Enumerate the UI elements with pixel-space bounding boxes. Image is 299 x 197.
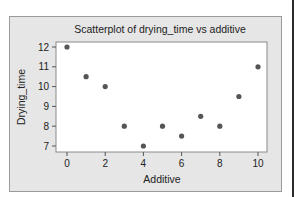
data-point <box>64 44 69 49</box>
y-tick-label: 11 <box>39 61 50 72</box>
x-tick-label: 0 <box>64 158 70 169</box>
y-axis: 789101112 <box>38 42 56 152</box>
x-tick-label: 6 <box>179 158 185 169</box>
plot-area <box>56 42 267 152</box>
scatterplot: Scatterplot of drying_time vs additive 7… <box>0 0 299 197</box>
data-point <box>198 114 203 119</box>
data-point <box>179 134 184 139</box>
x-tick-label: 10 <box>252 158 264 169</box>
y-tick-label: 12 <box>38 42 50 53</box>
y-axis-label: Drying_time <box>15 69 27 125</box>
data-point <box>103 84 108 89</box>
x-tick-label: 4 <box>141 158 147 169</box>
y-tick-label: 10 <box>38 81 50 92</box>
y-tick-label: 7 <box>43 141 49 152</box>
x-tick-label: 8 <box>217 158 223 169</box>
data-point <box>141 143 146 148</box>
y-tick-label: 9 <box>43 101 49 112</box>
data-point <box>255 64 260 69</box>
chart-title: Scatterplot of drying_time vs additive <box>74 23 246 35</box>
data-point <box>122 124 127 129</box>
data-point <box>217 124 222 129</box>
data-point <box>84 74 89 79</box>
x-axis: 0246810 <box>64 152 264 169</box>
data-point <box>160 124 165 129</box>
x-axis-label: Additive <box>143 173 181 185</box>
data-point <box>236 94 241 99</box>
x-tick-label: 2 <box>102 158 108 169</box>
y-tick-label: 8 <box>43 121 49 132</box>
